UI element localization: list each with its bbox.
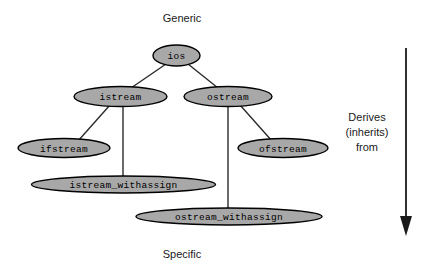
derives-direction-arrow [400,48,412,236]
edge-ios-istream [131,64,166,88]
node-ostream[interactable]: ostream [184,87,272,107]
legend-line-2: (inherits) [346,126,389,138]
node-label-ostream_withassign: ostream_withassign [175,212,283,223]
diagram-canvas: ios istream ostream ifstream ofstream is… [0,0,426,275]
node-label-istream: istream [99,92,141,103]
node-ofstream[interactable]: ofstream [238,139,328,158]
caption-specific: Specific [163,248,202,260]
edge-istream-ifstream [78,105,110,141]
legend-derives-inherits-from: Derives (inherits) from [346,111,389,153]
node-istream_withassign[interactable]: istream_withassign [32,176,216,193]
node-label-ostream: ostream [207,92,249,103]
legend-line-1: Derives [348,111,386,123]
node-label-istream_withassign: istream_withassign [69,180,177,191]
edge-ostream-ofstream [240,105,272,141]
node-label-ofstream: ofstream [259,144,307,155]
legend-line-3: from [356,141,378,153]
node-ostream_withassign[interactable]: ostream_withassign [136,208,322,225]
arrow-head-icon [400,216,412,236]
node-label-ifstream: ifstream [40,144,88,155]
node-label-ios: ios [167,51,185,62]
edge-ios-ostream [188,64,218,88]
caption-generic: Generic [163,12,202,24]
node-istream[interactable]: istream [74,87,167,107]
node-ifstream[interactable]: ifstream [18,139,110,158]
node-ios[interactable]: ios [153,45,200,66]
class-hierarchy-diagram: ios istream ostream ifstream ofstream is… [0,0,426,275]
